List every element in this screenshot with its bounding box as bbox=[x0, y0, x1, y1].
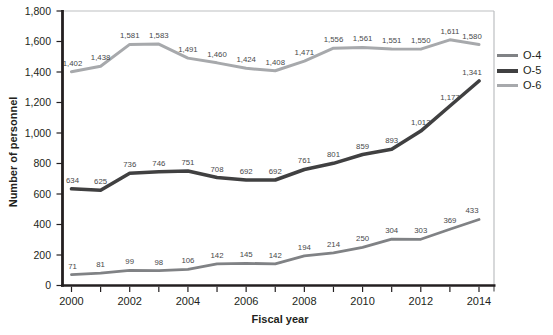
x-axis-title: Fiscal year bbox=[252, 313, 309, 325]
y-tick-label: 1,600 bbox=[25, 35, 51, 47]
data-label: 761 bbox=[298, 156, 311, 165]
data-label: 1,561 bbox=[353, 34, 373, 43]
data-label: 142 bbox=[211, 251, 224, 260]
legend-swatch-o6 bbox=[497, 84, 518, 87]
x-tick-label: 2008 bbox=[292, 295, 316, 307]
data-label: 1,408 bbox=[265, 58, 285, 67]
legend-label-o4: O-4 bbox=[523, 50, 541, 61]
data-label: 145 bbox=[240, 250, 254, 259]
y-tick-label: 0 bbox=[45, 279, 51, 291]
y-tick-label: 1,800 bbox=[25, 5, 51, 17]
data-label: 433 bbox=[465, 206, 478, 215]
data-label: 634 bbox=[66, 176, 80, 185]
legend-item-o5: O-5 bbox=[497, 63, 541, 78]
data-label: 1,550 bbox=[411, 36, 431, 45]
data-label: 746 bbox=[152, 159, 165, 168]
data-label: 751 bbox=[181, 158, 194, 167]
data-label: 1,460 bbox=[207, 50, 227, 59]
data-label: 893 bbox=[385, 136, 398, 145]
data-label: 194 bbox=[298, 243, 312, 252]
data-label: 625 bbox=[94, 177, 108, 186]
chart-legend: O-4 O-5 O-6 bbox=[497, 48, 541, 93]
data-label: 708 bbox=[211, 165, 224, 174]
data-label: 250 bbox=[356, 234, 370, 243]
y-tick-label: 1,400 bbox=[25, 66, 51, 78]
data-label: 1,341 bbox=[462, 68, 482, 77]
data-label: 1,580 bbox=[462, 32, 482, 41]
data-label: 1,013 bbox=[411, 118, 431, 127]
data-label: 369 bbox=[443, 216, 456, 225]
data-label: 692 bbox=[269, 167, 282, 176]
data-label: 1,471 bbox=[295, 48, 315, 57]
personnel-line-chart-figure: Number of personnel 02004006008001,0001,… bbox=[0, 0, 553, 335]
x-tick-label: 2012 bbox=[409, 295, 433, 307]
data-label: 81 bbox=[96, 260, 105, 269]
data-label: 1,581 bbox=[120, 31, 140, 40]
data-label: 142 bbox=[269, 251, 282, 260]
data-label: 214 bbox=[327, 240, 341, 249]
data-label: 71 bbox=[68, 262, 77, 271]
data-label: 1,177 bbox=[440, 93, 460, 102]
data-label: 692 bbox=[240, 167, 253, 176]
x-tick-label: 2004 bbox=[176, 295, 200, 307]
data-label: 1,424 bbox=[236, 55, 256, 64]
data-label: 1,556 bbox=[324, 35, 344, 44]
data-label: 1,583 bbox=[149, 31, 169, 40]
data-label: 98 bbox=[154, 258, 163, 267]
data-label: 736 bbox=[123, 160, 136, 169]
y-tick-label: 800 bbox=[33, 157, 51, 169]
legend-label-o6: O-6 bbox=[523, 80, 541, 91]
x-tick-label: 2014 bbox=[467, 295, 491, 307]
x-tick-label: 2002 bbox=[117, 295, 141, 307]
x-tick-label: 2010 bbox=[350, 295, 374, 307]
data-label: 99 bbox=[125, 257, 134, 266]
y-tick-label: 600 bbox=[33, 188, 51, 200]
data-label: 1,491 bbox=[178, 45, 198, 54]
x-tick-label: 2000 bbox=[59, 295, 83, 307]
y-axis-title: Number of personnel bbox=[7, 97, 19, 208]
line-chart-canvas: 02004006008001,0001,2001,4001,6001,80020… bbox=[0, 0, 553, 335]
data-label: 106 bbox=[181, 256, 194, 265]
data-label: 801 bbox=[327, 150, 340, 159]
legend-item-o6: O-6 bbox=[497, 78, 541, 93]
y-tick-label: 1,200 bbox=[25, 96, 51, 108]
data-label: 303 bbox=[414, 226, 427, 235]
data-label: 1,611 bbox=[440, 27, 459, 36]
x-tick-label: 2006 bbox=[234, 295, 258, 307]
legend-swatch-o4 bbox=[497, 54, 518, 57]
data-label: 859 bbox=[356, 142, 369, 151]
y-tick-label: 400 bbox=[33, 218, 51, 230]
data-label: 1,402 bbox=[63, 59, 83, 68]
legend-swatch-o5 bbox=[497, 69, 518, 73]
data-label: 304 bbox=[385, 226, 399, 235]
legend-label-o5: O-5 bbox=[523, 65, 541, 76]
y-tick-label: 1,000 bbox=[25, 127, 51, 139]
y-tick-label: 200 bbox=[33, 249, 51, 261]
legend-item-o4: O-4 bbox=[497, 48, 541, 63]
data-label: 1,551 bbox=[382, 36, 402, 45]
data-label: 1,438 bbox=[91, 53, 111, 62]
